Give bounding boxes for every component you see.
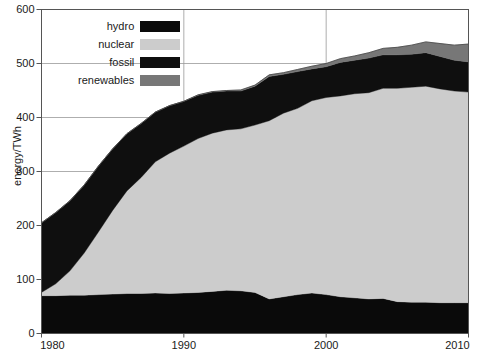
legend-item-renewables: renewables [78, 72, 180, 88]
y-tick-500: 500 [16, 57, 34, 69]
legend-swatch-renewables [140, 75, 180, 86]
stacked-area-chart: energy/TWh 0100200300400500600 198019902… [0, 0, 479, 356]
x-tick-1980: 1980 [40, 339, 66, 351]
y-tick-0: 0 [28, 327, 34, 339]
y-tick-600: 600 [16, 3, 34, 15]
legend-item-nuclear: nuclear [78, 36, 180, 52]
legend-label-fossil: fossil [109, 56, 134, 68]
y-tick-400: 400 [16, 111, 34, 123]
chart-legend: hydro nuclear fossil renewables [78, 18, 180, 90]
y-tick-200: 200 [16, 219, 34, 231]
plot-area [0, 0, 479, 356]
legend-label-renewables: renewables [78, 74, 134, 86]
legend-label-hydro: hydro [107, 20, 135, 32]
legend-swatch-hydro [140, 21, 180, 32]
legend-item-hydro: hydro [78, 18, 180, 34]
y-tick-100: 100 [16, 273, 34, 285]
legend-label-nuclear: nuclear [98, 38, 134, 50]
legend-item-fossil: fossil [78, 54, 180, 70]
legend-swatch-nuclear [140, 39, 180, 50]
y-tick-300: 300 [16, 165, 34, 177]
legend-swatch-fossil [140, 57, 180, 68]
x-tick-1990: 1990 [171, 339, 197, 351]
x-tick-2010: 2010 [445, 339, 471, 351]
x-tick-2000: 2000 [313, 339, 339, 351]
y-axis-title: energy/TWh [11, 111, 23, 201]
